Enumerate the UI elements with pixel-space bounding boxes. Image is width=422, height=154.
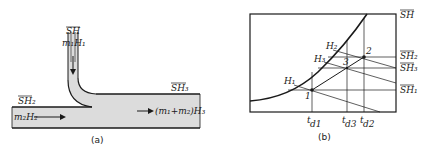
label-top-sh: SH — [66, 26, 80, 36]
point-label-3: 3 — [343, 57, 349, 67]
svg-text:d2: d2 — [363, 119, 375, 129]
label-left-flow: m₂H₂ — [14, 112, 38, 122]
label-left-sh: SH₂ — [18, 96, 36, 106]
y-label-sh2: SH₂ — [400, 51, 418, 61]
point-label-2: 2 — [365, 46, 372, 56]
figure-canvas: SH m₁H₁ SH₂ m₂H₂ SH₃ (m₁+m₂)H₃ (a) — [0, 0, 422, 154]
panel-a-diagram: SH m₁H₁ SH₂ m₂H₂ SH₃ (m₁+m₂)H₃ (a) — [12, 26, 206, 145]
curve-label-h3: H₃ — [313, 54, 326, 64]
saturation-curve — [250, 14, 367, 101]
label-top-flow: m₁H₁ — [62, 38, 86, 48]
point-1 — [310, 88, 314, 92]
caption-a: (a) — [91, 135, 104, 145]
y-label-sh1: SH₁ — [400, 85, 418, 95]
svg-text:d1: d1 — [310, 119, 322, 129]
x-label-td3: t d3 — [342, 115, 357, 129]
svg-text:d3: d3 — [345, 119, 357, 129]
caption-b: (b) — [318, 132, 331, 142]
y-label-sh3: SH₃ — [400, 63, 418, 73]
x-label-td2: t d2 — [360, 115, 375, 129]
point-3 — [346, 67, 348, 69]
panel-b-chart: 1 2 3 H₁ H₂ H₃ SH SH₂ SH₃ SH₁ t d1 t d3 … — [250, 10, 418, 142]
curve-label-h2: H₂ — [325, 41, 338, 51]
y-label-sh: SH — [400, 10, 414, 20]
label-outlet-sh: SH₃ — [171, 83, 189, 93]
curve-label-h1: H₁ — [283, 76, 295, 86]
x-label-td1: t d1 — [307, 115, 322, 129]
label-outlet-flow: (m₁+m₂)H₃ — [155, 106, 206, 116]
point-label-1: 1 — [305, 91, 311, 101]
